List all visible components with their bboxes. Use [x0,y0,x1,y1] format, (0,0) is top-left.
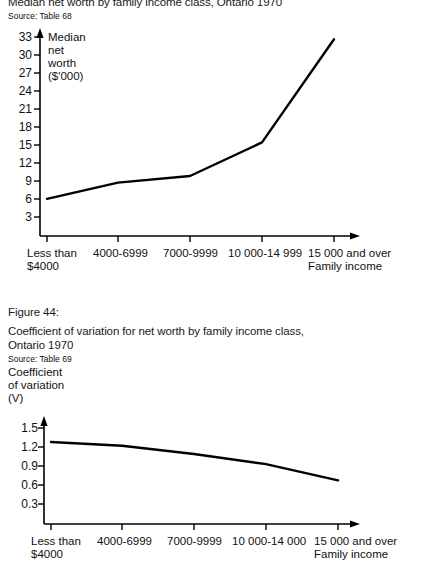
x-tick-label-7000-9999: 7000-9999 [167,535,222,548]
x-tick-label-less-than-4000-line2: $4000 [31,548,63,561]
x-tick-label-15000-and-over: 15 000 and over [314,535,397,548]
x-tick-label-less-than-4000-line1: Less than [31,535,81,548]
y-tick-marks [38,428,44,504]
y-axis-arrow-icon [40,416,47,426]
x-tick-label-4000-6999: 4000-6999 [97,535,152,548]
x-tick-marks [51,524,338,530]
figure-44-x-axis-title: Family income [314,548,388,561]
figure-44-data-line [51,442,338,480]
x-tick-label-10000-14000: 10 000-14 000 [232,535,306,548]
x-axis-arrow-icon [350,520,360,527]
